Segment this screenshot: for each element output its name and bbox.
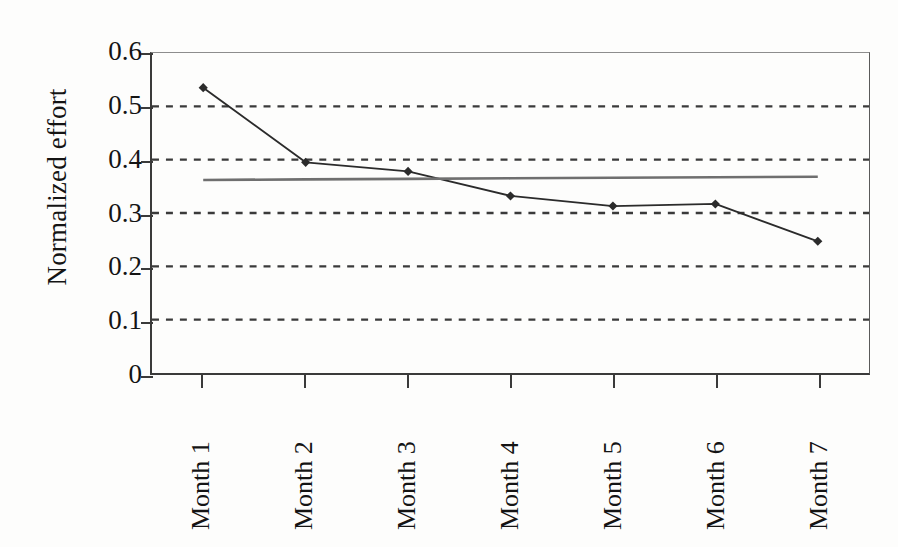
y-axis-tick-labels: 0.60.50.40.30.20.10 bbox=[60, 0, 142, 547]
x-axis-label-slot: Month 3 bbox=[389, 392, 425, 532]
y-axis-tick-mark bbox=[141, 53, 153, 55]
y-axis-tick-mark bbox=[141, 107, 153, 109]
data-point-marker bbox=[608, 202, 617, 211]
trend-line bbox=[203, 177, 818, 180]
data-point-marker bbox=[403, 167, 412, 176]
x-axis-label-slot: Month 6 bbox=[698, 392, 734, 532]
x-axis-tick-mark bbox=[510, 375, 512, 388]
x-axis-tick-label: Month 2 bbox=[286, 390, 322, 530]
y-axis-tick-label: 0 bbox=[68, 361, 142, 388]
x-axis-label-slot: Month 4 bbox=[492, 392, 528, 532]
series-line bbox=[203, 88, 818, 242]
data-series-layer bbox=[152, 53, 869, 373]
x-axis-tick-mark bbox=[201, 375, 203, 388]
plot-area bbox=[150, 52, 870, 375]
x-axis-label-slot: Month 2 bbox=[286, 392, 322, 532]
data-point-marker bbox=[506, 191, 515, 200]
x-axis-tick-label: Month 7 bbox=[801, 390, 837, 530]
x-axis-tick-label: Month 4 bbox=[492, 390, 528, 530]
y-axis-tick-label: 0.1 bbox=[68, 307, 142, 334]
x-axis-tick-label: Month 5 bbox=[595, 390, 631, 530]
x-axis-label-slot: Month 7 bbox=[801, 392, 837, 532]
y-axis-tick-mark bbox=[141, 215, 153, 217]
x-axis-tick-label: Month 3 bbox=[389, 390, 425, 530]
y-axis-tick-label: 0.6 bbox=[68, 38, 142, 65]
x-axis-tick-label: Month 1 bbox=[183, 390, 219, 530]
x-axis-tick-mark bbox=[613, 375, 615, 388]
x-axis-tick-mark bbox=[716, 375, 718, 388]
x-axis-label-slot: Month 5 bbox=[595, 392, 631, 532]
x-axis-tick-marks bbox=[150, 375, 870, 389]
y-axis-tick-mark bbox=[141, 268, 153, 270]
x-axis-label-slot: Month 1 bbox=[183, 392, 219, 532]
x-axis-tick-mark bbox=[819, 375, 821, 388]
data-point-marker bbox=[711, 199, 720, 208]
y-axis-tick-label: 0.4 bbox=[68, 146, 142, 173]
x-axis-tick-mark bbox=[304, 375, 306, 388]
y-axis-tick-label: 0.3 bbox=[68, 200, 142, 227]
data-point-marker bbox=[813, 237, 822, 246]
y-axis-tick-label: 0.2 bbox=[68, 253, 142, 280]
y-axis-tick-mark bbox=[141, 161, 153, 163]
x-axis-tick-mark bbox=[407, 375, 409, 388]
y-axis-tick-label: 0.5 bbox=[68, 92, 142, 119]
x-axis-tick-labels: Month 1Month 2Month 3Month 4Month 5Month… bbox=[150, 392, 870, 532]
chart-figure: Normalized effort 0.60.50.40.30.20.10 Mo… bbox=[0, 0, 898, 547]
x-axis-tick-label: Month 6 bbox=[698, 390, 734, 530]
y-axis-tick-mark bbox=[141, 322, 153, 324]
